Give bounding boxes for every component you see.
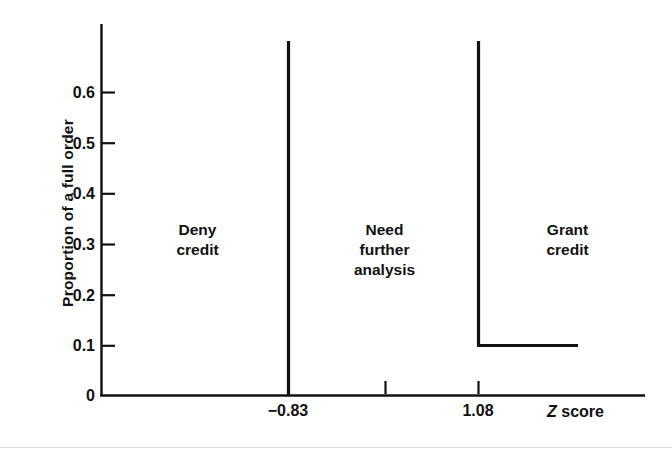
region-label-deny-credit: Deny credit	[125, 220, 270, 260]
y-tick-marks	[102, 93, 115, 346]
x-tick-label-lower-cutoff: −0.83	[238, 403, 338, 419]
region-label-grant-credit: Grant credit	[495, 220, 640, 260]
chart-figure: Proportion of a full order 0.6 0.5 0.4 0…	[0, 0, 672, 456]
region-label-need-further-analysis: Need further analysis	[312, 220, 457, 279]
bottom-divider	[0, 447, 672, 448]
x-tick-marks	[386, 381, 479, 394]
x-tick-label-upper-cutoff: 1.08	[438, 403, 518, 419]
x-axis-title-rest: score	[557, 403, 604, 420]
x-axis-title: Z score	[547, 403, 604, 421]
x-axis-title-variable: Z	[547, 403, 557, 420]
